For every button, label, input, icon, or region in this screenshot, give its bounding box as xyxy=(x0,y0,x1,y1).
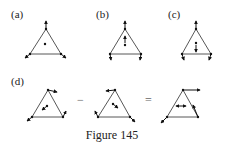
arrow-up-icon xyxy=(193,105,198,117)
arrow-down-right-icon xyxy=(130,117,135,122)
arrow-down-left-icon xyxy=(25,54,30,58)
panel-c-label: (c) xyxy=(168,8,181,21)
triangle-d1 xyxy=(32,90,63,117)
arrow-down-right-icon xyxy=(113,104,118,108)
panel-b: (b) xyxy=(96,8,142,60)
minus-operator: − xyxy=(77,93,84,107)
triangle-d3 xyxy=(167,90,198,117)
panel-d: (d) − = xyxy=(11,75,200,123)
arrow-down-left-icon xyxy=(42,106,47,110)
arrow-left-icon xyxy=(106,90,115,91)
panel-b-label: (b) xyxy=(96,8,109,21)
figure-canvas: (a) (b) (c) (d) xyxy=(0,0,225,147)
arrow-up-left-icon xyxy=(95,111,98,117)
panel-d-label: (d) xyxy=(11,75,24,88)
arrow-up-icon xyxy=(63,111,66,117)
panel-a: (a) xyxy=(11,8,66,58)
arrow-down-right-icon xyxy=(61,54,66,58)
panel-a-label: (a) xyxy=(11,8,24,21)
arrow-down-icon xyxy=(209,54,211,60)
arrow-down-icon xyxy=(140,54,141,60)
triangle-a xyxy=(30,29,61,54)
arrow-down-icon xyxy=(182,54,184,60)
equals-operator: = xyxy=(145,93,152,107)
centroid-dot xyxy=(44,43,46,45)
arrow-down-icon xyxy=(110,54,111,60)
arrow-down-left-icon xyxy=(161,117,167,123)
arrow-down-left-icon xyxy=(27,117,32,121)
figure-caption: Figure 145 xyxy=(86,128,138,142)
figure-145: (a) (b) (c) (d) xyxy=(0,0,225,147)
panel-c: (c) xyxy=(168,8,212,60)
